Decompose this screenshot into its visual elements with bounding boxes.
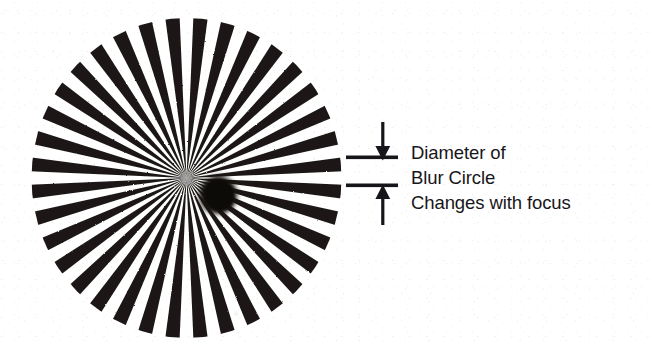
leader-line-lower (346, 184, 398, 188)
leader-line-upper (346, 156, 398, 160)
callout-line-1: Diameter of (411, 140, 643, 165)
siemens-star (31, 18, 342, 338)
arrow-down-icon (375, 122, 390, 161)
callout-line-2: Blur Circle (411, 165, 643, 190)
blur-circle-core (204, 179, 234, 211)
callout-line-3: Changes with focus (411, 190, 643, 215)
scan-artifact-speck (234, 311, 238, 316)
blur-circle-callout: Diameter of Blur Circle Changes with foc… (346, 122, 646, 232)
callout-arrows-svg (346, 122, 404, 226)
callout-label-block: Diameter of Blur Circle Changes with foc… (411, 140, 643, 215)
siemens-star-svg (31, 18, 342, 338)
arrow-up-icon (375, 185, 390, 226)
spoke-group (31, 18, 342, 338)
figure-canvas: Diameter of Blur Circle Changes with foc… (0, 0, 653, 347)
